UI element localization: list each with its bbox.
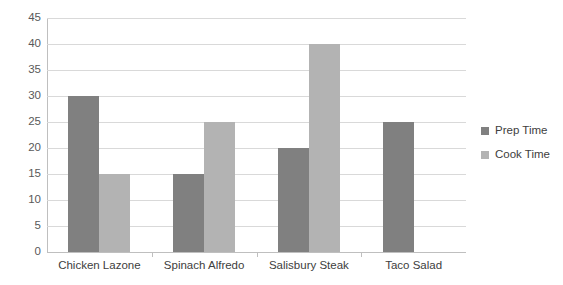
gridline-30 <box>47 96 466 97</box>
legend-item-cook-time[interactable]: Cook Time <box>481 143 563 167</box>
x-label-salisbury-steak: Salisbury Steak <box>257 258 362 273</box>
y-tick-label: 0 <box>1 246 41 258</box>
legend-swatch-icon <box>481 151 489 159</box>
y-tick-label: 35 <box>1 64 41 76</box>
y-tick-label: 45 <box>1 12 41 24</box>
chart-legend: Prep TimeCook Time <box>481 119 563 167</box>
y-tick-label: 25 <box>1 116 41 128</box>
bar-chart: 454035302520151050 Chicken LazoneSpinach… <box>0 0 563 285</box>
gridline-40 <box>47 44 466 45</box>
x-label-taco-salad: Taco Salad <box>361 258 466 273</box>
y-axis-tick-labels: 454035302520151050 <box>0 18 41 252</box>
bar-cook-time-chicken-lazone <box>99 174 130 252</box>
x-label-chicken-lazone: Chicken Lazone <box>47 258 152 273</box>
bar-prep-time-spinach-alfredo <box>173 174 204 252</box>
x-axis-tick <box>152 252 153 257</box>
bar-prep-time-taco-salad <box>383 122 414 252</box>
y-tick-label: 15 <box>1 168 41 180</box>
gridline-35 <box>47 70 466 71</box>
x-label-spinach-alfredo: Spinach Alfredo <box>152 258 257 273</box>
y-tick-label: 30 <box>1 90 41 102</box>
y-tick-label: 40 <box>1 38 41 50</box>
legend-item-prep-time[interactable]: Prep Time <box>481 119 563 143</box>
y-tick-label: 20 <box>1 142 41 154</box>
x-axis-tick <box>361 252 362 257</box>
legend-swatch-icon <box>481 127 489 135</box>
plot-area <box>47 18 466 252</box>
bar-prep-time-salisbury-steak <box>278 148 309 252</box>
gridline-45 <box>47 18 466 19</box>
bar-cook-time-salisbury-steak <box>309 44 340 252</box>
bar-cook-time-spinach-alfredo <box>204 122 235 252</box>
legend-label: Prep Time <box>495 125 547 137</box>
legend-label: Cook Time <box>495 149 550 161</box>
x-axis-category-labels: Chicken LazoneSpinach AlfredoSalisbury S… <box>47 258 466 278</box>
bar-prep-time-chicken-lazone <box>68 96 99 252</box>
y-tick-label: 10 <box>1 194 41 206</box>
x-axis-tick <box>257 252 258 257</box>
y-tick-label: 5 <box>1 220 41 232</box>
